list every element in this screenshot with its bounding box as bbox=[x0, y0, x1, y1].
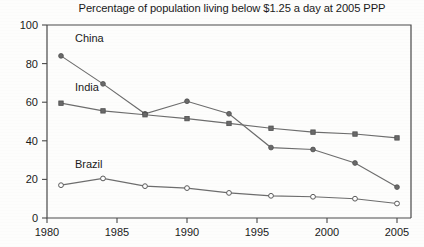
data-point-brazil-1999 bbox=[311, 194, 316, 199]
x-tick-label: 2000 bbox=[315, 226, 339, 238]
x-tick-label: 2005 bbox=[385, 226, 409, 238]
data-point-india-1990 bbox=[185, 116, 189, 120]
data-point-china-1999 bbox=[311, 147, 316, 152]
series-label-brazil: Brazil bbox=[75, 158, 103, 170]
data-point-india-1984 bbox=[101, 109, 105, 113]
data-point-china-2002 bbox=[353, 161, 358, 166]
chart-series-labels: ChinaIndiaBrazil bbox=[75, 32, 105, 169]
y-tick-label: 20 bbox=[26, 173, 38, 185]
data-point-india-1996 bbox=[269, 126, 273, 130]
data-point-brazil-2005 bbox=[395, 201, 400, 206]
y-tick-label: 0 bbox=[32, 212, 38, 224]
data-point-india-1987 bbox=[143, 113, 147, 117]
x-tick-label: 1985 bbox=[105, 226, 129, 238]
data-point-brazil-1987 bbox=[143, 184, 148, 189]
data-point-brazil-2002 bbox=[353, 196, 358, 201]
series-label-china: China bbox=[75, 32, 105, 44]
y-axis-tick-labels: 020406080100 bbox=[20, 19, 38, 224]
x-tick-label: 1995 bbox=[245, 226, 269, 238]
x-axis-tick-labels: 198019851990199520002005 bbox=[35, 226, 409, 238]
data-point-china-1990 bbox=[185, 99, 190, 104]
series-line-india bbox=[61, 103, 397, 138]
chart-data-markers bbox=[59, 53, 400, 205]
data-point-brazil-1984 bbox=[101, 176, 106, 181]
chart-tick-marks bbox=[42, 25, 397, 223]
data-point-india-1981 bbox=[59, 101, 63, 105]
x-tick-label: 1980 bbox=[35, 226, 59, 238]
data-point-china-1981 bbox=[59, 53, 64, 58]
data-point-china-2005 bbox=[395, 185, 400, 190]
y-tick-label: 40 bbox=[26, 135, 38, 147]
data-point-brazil-1993 bbox=[227, 191, 232, 196]
data-point-china-1984 bbox=[101, 81, 106, 86]
chart-series-lines bbox=[61, 56, 397, 204]
chart-figure: Percentage of population living below $1… bbox=[0, 0, 424, 247]
x-tick-label: 1990 bbox=[175, 226, 199, 238]
data-point-india-2005 bbox=[395, 136, 399, 140]
data-point-brazil-1990 bbox=[185, 186, 190, 191]
y-tick-label: 60 bbox=[26, 96, 38, 108]
y-tick-label: 100 bbox=[20, 19, 38, 31]
line-chart-plot: 198019851990199520002005 020406080100 Ch… bbox=[0, 0, 424, 247]
data-point-india-1993 bbox=[227, 121, 231, 125]
data-point-india-1999 bbox=[311, 130, 315, 134]
data-point-india-2002 bbox=[353, 132, 357, 136]
data-point-brazil-1981 bbox=[59, 183, 64, 188]
data-point-brazil-1996 bbox=[269, 193, 274, 198]
series-label-india: India bbox=[75, 81, 100, 93]
data-point-china-1996 bbox=[269, 145, 274, 150]
data-point-china-1993 bbox=[227, 111, 232, 116]
y-tick-label: 80 bbox=[26, 58, 38, 70]
